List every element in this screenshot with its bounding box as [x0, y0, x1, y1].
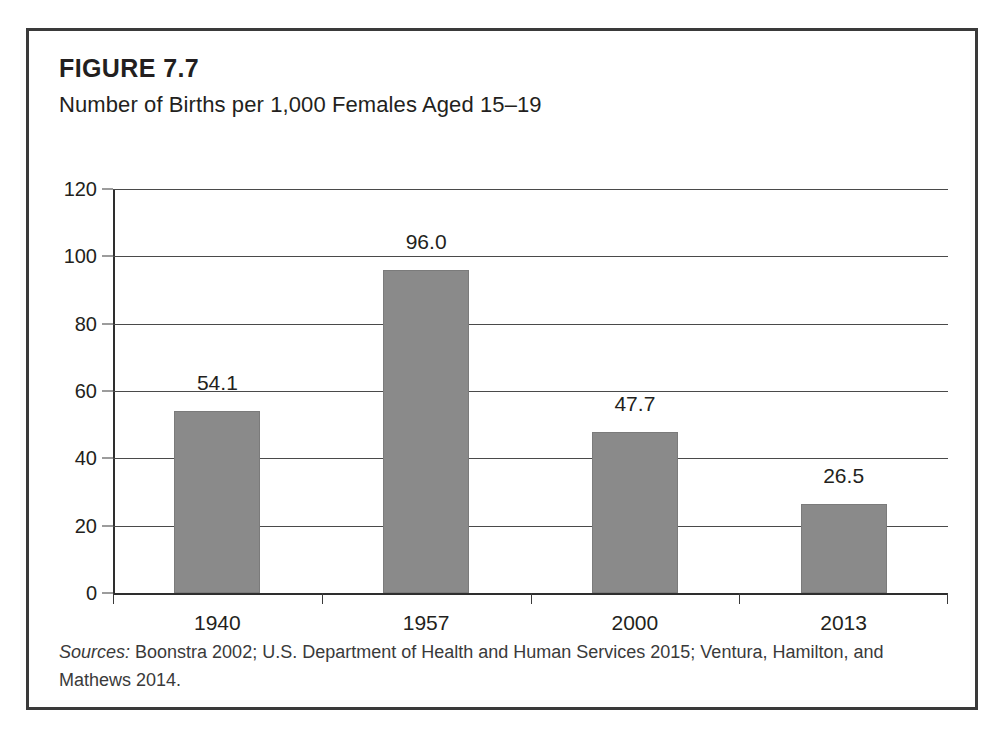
x-tick-mark-2 — [531, 593, 532, 604]
sources-label: Sources: — [59, 642, 130, 662]
x-tick-mark-3 — [739, 593, 740, 604]
y-tick-mark-100 — [102, 256, 113, 257]
y-tick-label-20: 20 — [75, 514, 97, 537]
y-tick-mark-120 — [102, 189, 113, 190]
bar-value-label-1957: 96.0 — [406, 230, 447, 254]
gridline-80 — [113, 324, 948, 325]
y-tick-label-40: 40 — [75, 447, 97, 470]
y-tick-mark-80 — [102, 323, 113, 324]
figure-heading: FIGURE 7.7 Number of Births per 1,000 Fe… — [59, 53, 919, 120]
sources-text: Boonstra 2002; U.S. Department of Health… — [59, 642, 883, 690]
bar-value-label-1940: 54.1 — [197, 371, 238, 395]
x-tick-label-2013: 2013 — [820, 611, 867, 635]
bar-1957 — [383, 270, 469, 593]
x-tick-label-1957: 1957 — [403, 611, 450, 635]
bar-chart-plot-area: 020406080100120 54.196.047.726.5 1940195… — [113, 189, 948, 593]
x-tick-mark-end — [947, 593, 948, 604]
x-tick-label-2000: 2000 — [612, 611, 659, 635]
y-tick-label-0: 0 — [86, 582, 97, 605]
bar-value-label-2000: 47.7 — [614, 392, 655, 416]
figure-subtitle: Number of Births per 1,000 Females Aged … — [59, 91, 919, 120]
bar-2000 — [592, 432, 678, 593]
x-tick-label-1940: 1940 — [194, 611, 241, 635]
y-tick-mark-20 — [102, 525, 113, 526]
y-tick-label-100: 100 — [64, 245, 97, 268]
y-tick-mark-60 — [102, 391, 113, 392]
y-tick-mark-40 — [102, 458, 113, 459]
bar-2013 — [801, 504, 887, 593]
y-tick-label-60: 60 — [75, 380, 97, 403]
y-tick-label-120: 120 — [64, 178, 97, 201]
gridline-120 — [113, 189, 948, 190]
sources-note: Sources: Boonstra 2002; U.S. Department … — [59, 639, 939, 695]
x-tick-mark-0 — [113, 593, 114, 604]
bar-1940 — [174, 411, 260, 593]
figure-frame: FIGURE 7.7 Number of Births per 1,000 Fe… — [26, 28, 978, 710]
gridline-60 — [113, 391, 948, 392]
y-tick-mark-0 — [102, 593, 113, 594]
gridline-100 — [113, 256, 948, 257]
y-tick-label-80: 80 — [75, 312, 97, 335]
bar-value-label-2013: 26.5 — [823, 464, 864, 488]
x-tick-mark-1 — [322, 593, 323, 604]
figure-number: FIGURE 7.7 — [59, 53, 919, 83]
